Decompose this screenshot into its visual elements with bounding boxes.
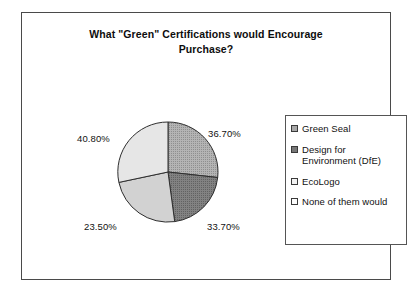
legend-item-label: Green Seal [302, 123, 351, 135]
legend-swatch-icon [291, 125, 298, 132]
legend-item-list: Green Seal Design for Environment (DfE) … [286, 116, 406, 244]
pie-slice-dfe [168, 172, 218, 222]
legend-item-ecologo: EcoLogo [291, 176, 402, 188]
pie-slice-none [118, 122, 168, 182]
legend-item-none: None of them would [291, 196, 402, 208]
chart-legend: Green Seal Design for Environment (DfE) … [285, 115, 407, 245]
legend-item-green-seal: Green Seal [291, 123, 402, 135]
legend-swatch-icon [291, 198, 298, 205]
legend-item-label: EcoLogo [302, 176, 340, 188]
pie-data-label-ecologo: 23.50% [84, 221, 117, 232]
pie-data-label-none: 40.80% [77, 133, 110, 144]
pie-data-label-dfe: 33.70% [207, 221, 240, 232]
chart-title: What "Green" Certifications would Encour… [22, 27, 390, 57]
legend-item-label: Design for Environment (DfE) [302, 144, 402, 167]
legend-swatch-icon [291, 178, 298, 185]
chart-frame: What "Green" Certifications would Encour… [21, 12, 391, 280]
legend-item-label: None of them would [302, 196, 387, 208]
pie-data-label-green-seal: 36.70% [208, 128, 241, 139]
legend-item-dfe: Design for Environment (DfE) [291, 144, 402, 167]
legend-swatch-icon [291, 146, 298, 153]
